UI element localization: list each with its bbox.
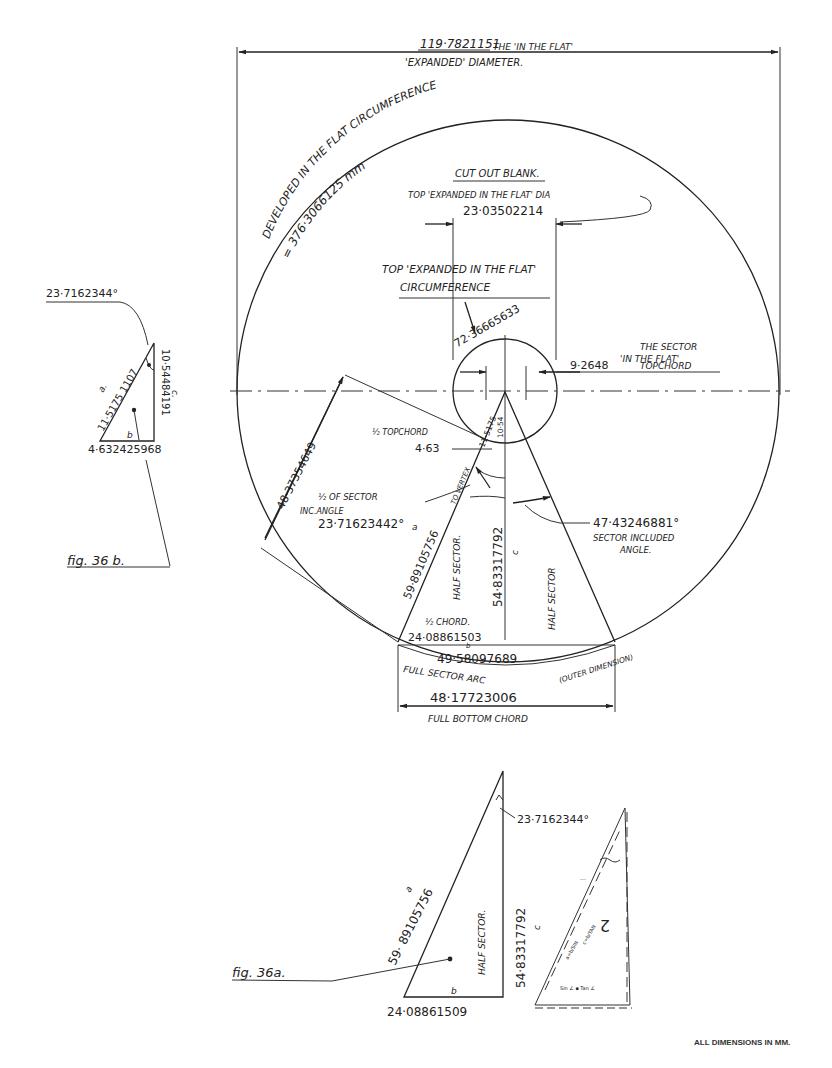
- fig36b-caption: fig. 36 b.: [67, 553, 125, 568]
- top-circumference-label-1: TOP 'EXPANDED IN THE FLAT': [382, 263, 536, 275]
- fig36a-c-letter: c: [532, 925, 542, 930]
- top-dia-label: TOP 'EXPANDED IN THE FLAT' DIA: [408, 190, 551, 200]
- fig36a-angle: 23·7162344°: [517, 813, 589, 826]
- top-circumference-label-2: CIRCUMFERENCE: [400, 281, 491, 293]
- sector-outline: [398, 392, 615, 642]
- sector-angle-label-1: SECTOR INCLUDED: [593, 533, 675, 543]
- developed-circumference-label: DEVELOPED IN THE FLAT CIRCUMFERENCE: [260, 78, 438, 240]
- fig36a-triangle: [404, 771, 503, 997]
- half-sector-angle-value: 23·71623442°: [318, 517, 404, 531]
- fig36b-a-value: 11·5175 1107: [95, 367, 140, 433]
- fig36a-a-letter: a: [403, 884, 414, 893]
- bottom-chord-value: 48·17723006: [430, 690, 517, 705]
- fig36a-label: HALF SECTOR.: [477, 910, 487, 975]
- fig36b-angle: 23·7162344°: [46, 287, 118, 300]
- developed-circumference-value: = 376·3066125 mm: [279, 159, 368, 261]
- sector-angle-label-2: ANGLE.: [619, 545, 652, 555]
- fig36b-c-letter: c.: [170, 390, 180, 398]
- half-chord-value: 24·08861503: [408, 631, 481, 644]
- fig36a-a-value: 59· 89105756: [385, 886, 436, 967]
- half-chord-label: ½ CHORD.: [425, 617, 470, 627]
- dimensions-note: ALL DIMENSIONS IN MM.: [694, 1038, 790, 1047]
- small-c-value: 10·54: [496, 416, 505, 438]
- fig36b-a-letter: a.: [96, 382, 109, 394]
- bottom-chord-label: FULL BOTTOM CHORD: [428, 714, 528, 724]
- half-top-chord-value: 4·63: [415, 442, 440, 455]
- sector-top-chord-suffix: TOPCHORD: [640, 361, 691, 371]
- fig36a-notes-triangle: … 2 Sin ∠ ▪ Tan ∠ a=b/SIN c=b/TAN: [535, 808, 632, 1008]
- fig-36a: 23·7162344° 59· 89105756 a HALF SECTOR. …: [232, 771, 632, 1019]
- cut-out-blank-drawing: 119·7821151 THE 'IN THE FLAT' 'EXPANDED'…: [230, 37, 790, 724]
- sector-height-value: 54·83317792: [491, 527, 505, 607]
- slant-letter: a: [412, 522, 418, 532]
- svg-text:Sin ∠ ▪ Tan ∠: Sin ∠ ▪ Tan ∠: [560, 985, 595, 991]
- fig36a-c-value: 54·83317792: [514, 908, 528, 988]
- fig36b-b-letter: b: [127, 430, 133, 440]
- diameter-value: 119·7821151: [420, 37, 500, 51]
- half-sector-right: HALF SECTOR: [547, 568, 557, 631]
- sector-height-letter: c: [510, 550, 520, 555]
- technical-drawing: 119·7821151 THE 'IN THE FLAT' 'EXPANDED'…: [0, 0, 832, 1068]
- diameter-label-1: THE 'IN THE FLAT': [493, 42, 573, 52]
- half-sector-angle-label-1: ½ OF SECTOR: [318, 492, 378, 502]
- svg-text:2: 2: [600, 916, 610, 935]
- half-chord-letter: b: [466, 642, 471, 650]
- svg-text:c=b/TAN: c=b/TAN: [581, 924, 597, 946]
- fig36a-caption: fig. 36a.: [232, 965, 286, 980]
- half-sector-angle-label-2: INC.ANGLE: [300, 507, 345, 516]
- arc-label: FULL SECTOR ARC: [403, 664, 487, 686]
- svg-text:…: …: [580, 874, 586, 881]
- fig36a-b-value: 24·08861509: [387, 1005, 467, 1019]
- sector-top-chord-label-1: THE SECTOR: [640, 342, 697, 352]
- sector-top-chord-value: 9·2648: [570, 359, 609, 372]
- cut-out-blank-title: CUT OUT BLANK.: [455, 168, 540, 179]
- slant-value: 59·89105756: [401, 528, 442, 601]
- sector-angle-value: 47·43246881°: [593, 516, 679, 530]
- fig-36b: 23·7162344° 11·5175 1107 a. 10·54484191 …: [46, 287, 180, 568]
- half-top-chord-label: ½ TOPCHORD: [372, 428, 428, 437]
- arc-value: 49·58097689: [437, 652, 517, 666]
- svg-text:a=b/SIN: a=b/SIN: [564, 940, 580, 961]
- fig36a-b-letter: b: [451, 986, 457, 996]
- diameter-label-2: 'EXPANDED' DIAMETER.: [405, 57, 523, 68]
- fig36b-b-value: 4·632425968: [88, 443, 161, 456]
- half-sector-left: HALF SECTOR.: [452, 535, 462, 600]
- outer-radius-value: 48·37354649: [274, 440, 319, 511]
- top-circumference-value: 72·36665633: [452, 302, 522, 350]
- top-dia-value: 23·03502214: [463, 204, 543, 218]
- arc-note: (OUTER DIMENSION): [558, 652, 635, 685]
- fig36b-c-value: 10·54484191: [160, 349, 171, 416]
